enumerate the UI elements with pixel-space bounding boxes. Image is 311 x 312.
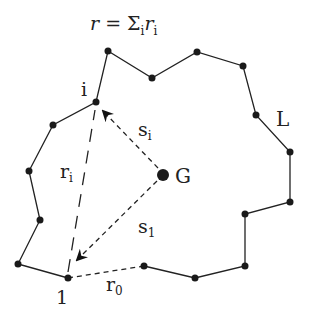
vertex-i [93,99,100,106]
vertex [287,199,294,206]
vertex [37,217,44,224]
vertex-1 [65,275,72,282]
formula: r = Σiri [90,12,157,38]
ri-vector [68,110,95,272]
label-r-0: r0 [106,273,123,298]
vertex [194,49,201,56]
vertex [287,149,294,156]
vertex [149,75,156,82]
contour-L [18,51,290,278]
vertex [253,112,260,119]
label-s-1: s1 [138,215,155,240]
vertex [192,275,199,282]
centroid-point [157,169,169,181]
vertices [15,48,294,282]
label-vertex-i: i [81,78,87,100]
vertex [141,263,148,270]
label-r-i: ri [60,160,73,185]
vertex [105,48,112,55]
vertex [240,63,247,70]
label-centroid-G: G [175,164,191,188]
label-s-i: si [138,118,152,143]
label-contour-L: L [276,107,289,131]
vertex [50,122,57,129]
contour-diagram: r = Σiri i 1 G L si s1 ri r0 [0,0,311,312]
vertex [15,261,22,268]
vertex [242,263,249,270]
vertex [242,211,249,218]
vertex [26,168,33,175]
label-vertex-1: 1 [56,286,68,308]
